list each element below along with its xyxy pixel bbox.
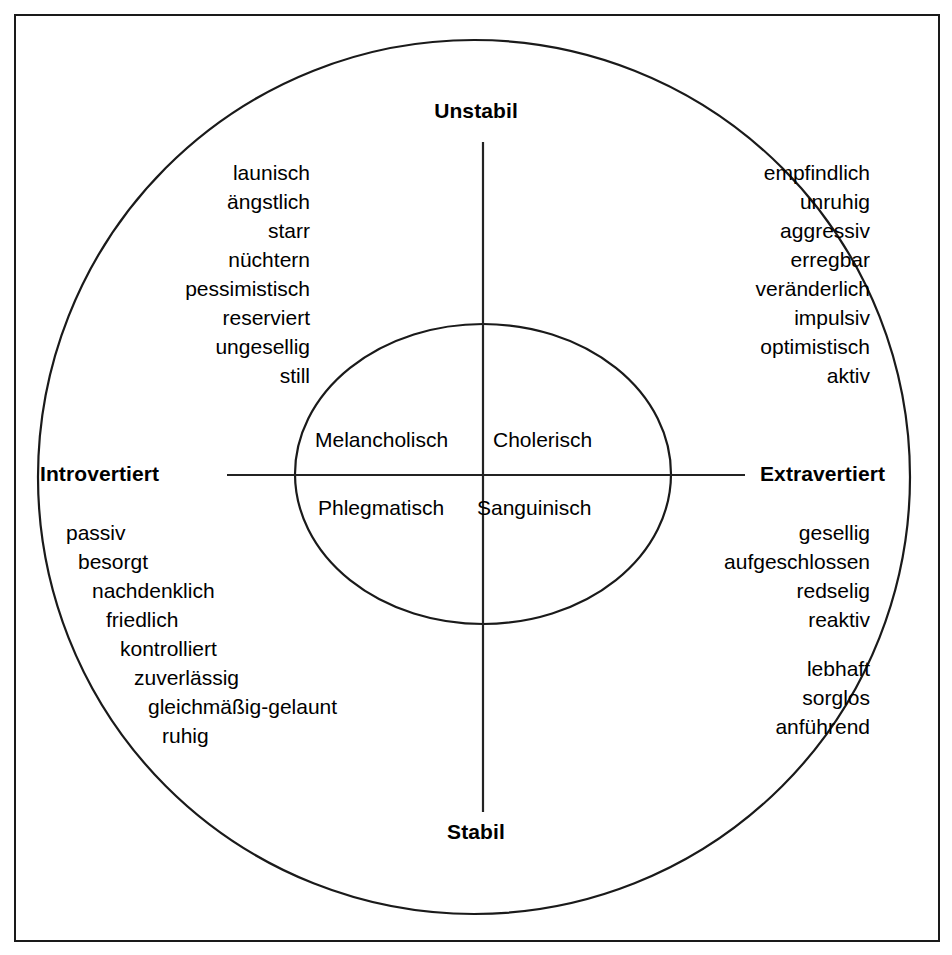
trait-item: erregbar — [600, 245, 870, 274]
trait-item: redselig — [620, 576, 870, 605]
trait-list-phlegmatic: passiv besorgt nachdenklich friedlich ko… — [60, 518, 390, 750]
temperament-phlegmatic: Phlegmatisch — [318, 496, 444, 520]
trait-item: unruhig — [600, 187, 870, 216]
trait-item: nüchtern — [60, 245, 310, 274]
trait-item: friedlich — [60, 605, 390, 634]
trait-list-spacer — [620, 634, 870, 654]
trait-item: starr — [60, 216, 310, 245]
trait-item: pessimistisch — [60, 274, 310, 303]
axis-label-unstable: Unstabil — [0, 99, 952, 123]
trait-item: lebhaft — [620, 654, 870, 683]
trait-item: ungesellig — [60, 332, 310, 361]
trait-item: besorgt — [60, 547, 390, 576]
trait-item: reserviert — [60, 303, 310, 332]
trait-item: aggressiv — [600, 216, 870, 245]
trait-item: ängstlich — [60, 187, 310, 216]
trait-item: nachdenklich — [60, 576, 390, 605]
trait-item: gesellig — [620, 518, 870, 547]
trait-item: kontrolliert — [60, 634, 390, 663]
temperament-melancholic: Melancholisch — [315, 428, 448, 452]
trait-item: aufgeschlossen — [620, 547, 870, 576]
trait-item: anführend — [620, 712, 870, 741]
trait-item: zuverlässig — [60, 663, 390, 692]
trait-item: still — [60, 361, 310, 390]
trait-item: impulsiv — [600, 303, 870, 332]
axis-label-stable: Stabil — [0, 820, 952, 844]
trait-item: aktiv — [600, 361, 870, 390]
axis-label-introvert: Introvertiert — [40, 462, 159, 486]
trait-list-melancholic: launisch ängstlich starr nüchtern pessim… — [60, 158, 310, 390]
trait-item: reaktiv — [620, 605, 870, 634]
trait-item: gleichmäßig-gelaunt — [60, 692, 390, 721]
trait-item: sorglos — [620, 683, 870, 712]
trait-item: passiv — [60, 518, 390, 547]
trait-item: veränderlich — [600, 274, 870, 303]
trait-item: optimistisch — [600, 332, 870, 361]
trait-item: launisch — [60, 158, 310, 187]
axis-label-extravert: Extravertiert — [760, 462, 885, 486]
trait-item: empfindlich — [600, 158, 870, 187]
temperament-sanguine: Sanguinisch — [477, 496, 591, 520]
trait-item: ruhig — [60, 721, 390, 750]
diagram-canvas: Unstabil Stabil Introvertiert Extraverti… — [0, 0, 952, 955]
temperament-choleric: Cholerisch — [493, 428, 592, 452]
trait-list-sanguine: gesellig aufgeschlossen redselig reaktiv… — [620, 518, 870, 741]
trait-list-choleric: empfindlich unruhig aggressiv erregbar v… — [600, 158, 870, 390]
